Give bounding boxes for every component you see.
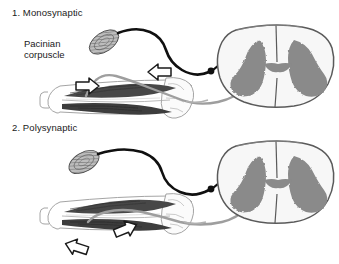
spinal-cord-cross-section-2 — [217, 141, 333, 223]
pacinian-corpuscle-1 — [85, 25, 123, 59]
ulna-bone-1 — [62, 100, 170, 102]
biceps-muscle-2 — [64, 200, 176, 214]
panel-title-polysynaptic: 2. Polysynaptic — [12, 122, 77, 133]
reflex-arc-figure: 1. Monosynaptic Pacinian corpuscle — [0, 0, 339, 264]
panel-monosynaptic-artwork — [40, 25, 334, 118]
pacinian-corpuscle-2 — [65, 146, 103, 179]
spinal-cord-cross-section-1 — [217, 25, 333, 107]
ulna-bone-2 — [62, 216, 170, 218]
tendon-2 — [66, 214, 160, 215]
arrow-stretch-left-2 — [63, 236, 90, 258]
tendon-1 — [66, 98, 160, 99]
panel-polysynaptic-artwork — [40, 141, 334, 258]
